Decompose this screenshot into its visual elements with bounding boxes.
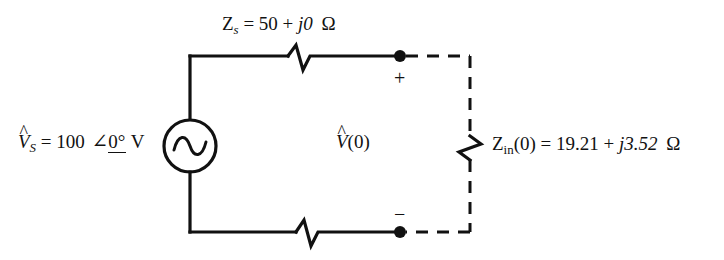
series-impedance-label: Zs = 50 + j0 Ω bbox=[222, 14, 336, 37]
circuit-schematic-svg bbox=[0, 0, 724, 260]
zin-plus: + bbox=[604, 133, 615, 154]
source-voltage-label: V^S = 100 ∠0° V bbox=[18, 132, 145, 155]
zin-real-part: 19.21 bbox=[556, 133, 599, 154]
zs-unit: Ω bbox=[318, 13, 336, 34]
terminal-minus-label: − bbox=[394, 204, 405, 224]
zs-subscript: s bbox=[234, 22, 239, 37]
terminal-plus-label: + bbox=[394, 68, 405, 88]
vout-hat-symbol: V^ bbox=[336, 132, 348, 151]
zin-imaginary-part: j3.52 bbox=[619, 133, 658, 154]
angle-value: 0° bbox=[108, 132, 126, 153]
output-voltage-label: V^(0) bbox=[336, 132, 370, 151]
bottom-wire-zigzag bbox=[296, 220, 400, 246]
zin-z-letter: Z bbox=[492, 133, 504, 154]
angle-notation: ∠0° bbox=[90, 132, 127, 153]
zin-argument: (0) bbox=[514, 133, 536, 154]
terminal-node-negative bbox=[394, 226, 406, 238]
input-impedance-zigzag bbox=[459, 136, 481, 160]
series-impedance-zigzag bbox=[288, 45, 400, 70]
circuit-diagram-figure: V^S = 100 ∠0° V Zs = 50 + j0 Ω V^(0) Zin… bbox=[0, 0, 724, 260]
zin-equals: = bbox=[541, 133, 552, 154]
zs-real-part: 50 bbox=[259, 13, 278, 34]
zs-plus: + bbox=[283, 13, 294, 34]
zin-subscript: in bbox=[504, 142, 514, 157]
source-subscript: S bbox=[30, 140, 36, 155]
vout-argument: (0) bbox=[348, 131, 370, 152]
zs-imaginary-part: j0 bbox=[298, 13, 313, 34]
zs-z-letter: Z bbox=[222, 13, 234, 34]
input-impedance-label: Zin(0) = 19.21 + j3.52 Ω bbox=[492, 134, 680, 157]
source-unit: V bbox=[131, 131, 145, 152]
source-magnitude: 100 bbox=[56, 131, 85, 152]
source-equals: = bbox=[41, 131, 52, 152]
zs-equals: = bbox=[243, 13, 254, 34]
zin-unit: Ω bbox=[662, 133, 680, 154]
v-hat-symbol: V^ bbox=[18, 132, 30, 151]
terminal-node-positive bbox=[394, 50, 406, 62]
angle-glyph-icon: ∠ bbox=[92, 130, 109, 152]
hat-accent-icon: ^ bbox=[19, 123, 27, 141]
hat-accent-icon: ^ bbox=[337, 123, 345, 141]
